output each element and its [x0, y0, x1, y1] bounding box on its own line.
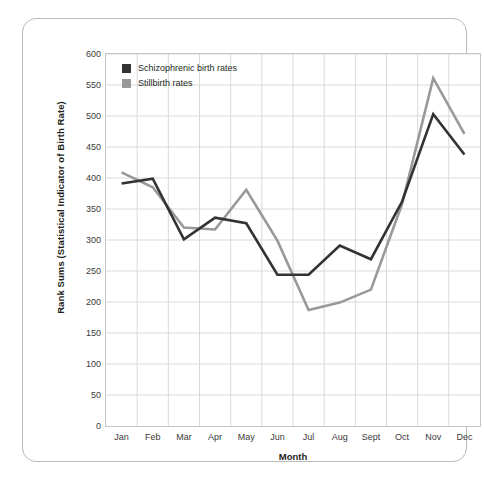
x-tick-label-may: May [238, 432, 255, 442]
y-tick-label: 50 [91, 390, 101, 400]
x-tick-label-jan: Jan [114, 432, 129, 442]
plot-area: 050100150200250300350400450500550600 Jan… [105, 53, 481, 427]
y-tick-label: 500 [86, 111, 101, 121]
figure-frame: Rank Sums (Statistical Indicator of Birt… [22, 18, 467, 462]
y-tick-label: 150 [86, 328, 101, 338]
y-tick-label: 250 [86, 266, 101, 276]
x-tick-label-jun: Jun [270, 432, 285, 442]
legend-swatch-icon [122, 64, 131, 73]
y-tick-label: 300 [86, 235, 101, 245]
x-tick-label-dec: Dec [456, 432, 472, 442]
legend-item-1[interactable]: Stillbirth rates [122, 77, 237, 90]
legend-label: Stillbirth rates [138, 77, 193, 90]
y-tick-label: 550 [86, 80, 101, 90]
y-tick-label: 450 [86, 142, 101, 152]
y-tick-label: 400 [86, 173, 101, 183]
chart-figure: Rank Sums (Statistical Indicator of Birt… [0, 0, 484, 478]
chart-legend: Schizophrenic birth ratesStillbirth rate… [122, 62, 237, 92]
x-tick-label-sept: Sept [362, 432, 381, 442]
x-tick-label-nov: Nov [425, 432, 441, 442]
y-axis-title: Rank Sums (Statistical Indicator of Birt… [55, 78, 66, 338]
x-tick-label-feb: Feb [145, 432, 161, 442]
x-tick-label-jul: Jul [303, 432, 315, 442]
y-tick-label: 200 [86, 297, 101, 307]
x-tick-label-aug: Aug [332, 432, 348, 442]
legend-label: Schizophrenic birth rates [138, 62, 237, 75]
legend-item-0[interactable]: Schizophrenic birth rates [122, 62, 237, 75]
y-tick-label: 100 [86, 359, 101, 369]
x-tick-label-apr: Apr [208, 432, 222, 442]
x-axis-title: Month [105, 451, 481, 462]
chart-canvas [106, 54, 480, 426]
legend-swatch-icon [122, 79, 131, 88]
y-tick-label: 350 [86, 204, 101, 214]
y-tick-label: 600 [86, 49, 101, 59]
y-tick-label: 0 [96, 421, 101, 431]
x-tick-label-mar: Mar [176, 432, 192, 442]
x-tick-label-oct: Oct [395, 432, 409, 442]
